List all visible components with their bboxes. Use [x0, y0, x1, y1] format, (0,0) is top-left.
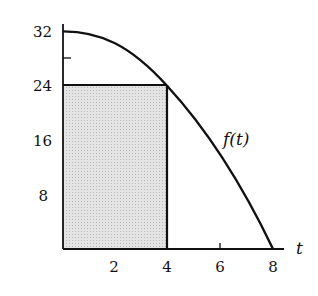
x-tick-label-2: 2 [109, 258, 119, 276]
x-axis-label: t [296, 238, 303, 258]
x-tick-label-8: 8 [268, 258, 278, 276]
x-tick-label-6: 6 [215, 258, 225, 276]
y-tick-label-24: 24 [33, 77, 52, 95]
y-tick-label-16: 16 [33, 132, 52, 150]
y-tick-label-32: 32 [33, 23, 52, 41]
curve-label: f(t) [221, 129, 249, 149]
y-tick-label-8: 8 [38, 187, 48, 205]
x-tick-label-4: 4 [162, 258, 172, 276]
chart: 32 24 16 8 2 4 6 8 t f(t) [0, 0, 318, 296]
shaded-area [63, 85, 167, 249]
